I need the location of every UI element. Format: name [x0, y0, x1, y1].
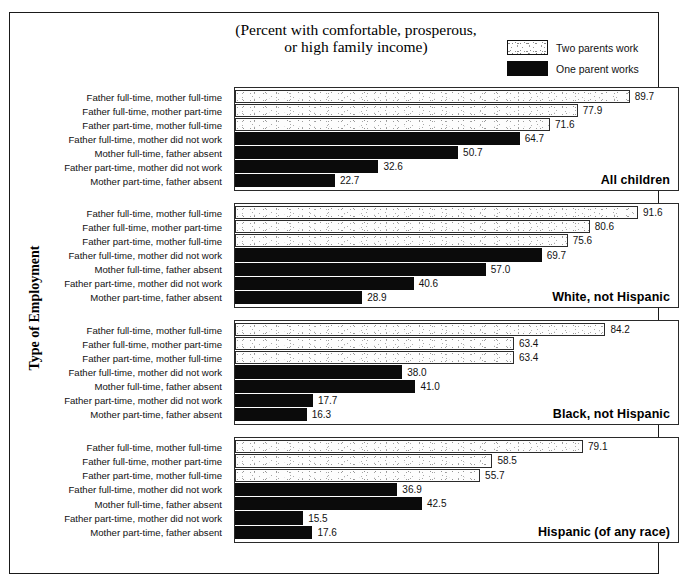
category-row: Father full-time, mother part-time [58, 454, 234, 468]
category-label: Mother part-time, father absent [58, 527, 228, 538]
category-label: Father part-time, mother full-time [58, 236, 228, 247]
category-row: Father part-time, mother did not work [58, 394, 234, 408]
bar-layer: 91.680.675.669.757.040.628.9 [235, 203, 679, 308]
category-row: Father full-time, mother did not work [58, 483, 234, 497]
category-label-column: Father full-time, mother full-timeFather… [58, 87, 234, 191]
category-label: Father part-time, mother did not work [58, 162, 228, 173]
category-row: Mother full-time, father absent [58, 263, 234, 277]
bar-value-label: 77.9 [581, 105, 604, 116]
bar-layer: 79.158.555.736.942.515.517.6 [235, 437, 679, 543]
bar-two-parents-work [235, 323, 605, 336]
chart-panel: White, not HispanicFather full-time, mot… [58, 203, 679, 308]
category-row: Father full-time, mother did not work [58, 132, 234, 146]
chart-title-line-1: (Percent with comfortable, prosperous, [206, 21, 506, 38]
legend-label-one-parent-works: One parent works [556, 63, 639, 75]
category-label-column: Father full-time, mother full-timeFather… [58, 437, 234, 543]
category-row: Father full-time, mother full-time [58, 90, 234, 104]
bar-value-label: 80.6 [593, 221, 616, 232]
bar-one-parent-works [235, 511, 303, 524]
bar-value-label: 71.6 [553, 119, 576, 130]
chart-panel: All childrenFather full-time, mother ful… [58, 87, 679, 191]
legend-item-one-parent-works: One parent works [507, 60, 657, 77]
chart-legend: Two parents work One parent works [507, 39, 657, 81]
category-label: Father full-time, mother full-time [58, 208, 228, 219]
legend-swatch-two-parents-work [507, 40, 548, 55]
bar-one-parent-works [235, 160, 378, 173]
bar-one-parent-works [235, 291, 362, 304]
bar-two-parents-work [235, 469, 480, 482]
category-label: Father full-time, mother part-time [58, 106, 228, 117]
bar-two-parents-work [235, 90, 630, 103]
y-axis-title: Type of Employment [24, 183, 46, 433]
bar-value-label: 15.5 [306, 513, 329, 524]
category-row: Father part-time, mother did not work [58, 511, 234, 525]
category-label: Father part-time, mother full-time [58, 120, 228, 131]
category-label: Father full-time, mother did not work [58, 134, 228, 145]
bar-value-label: 22.7 [338, 175, 361, 186]
bar-value-label: 91.6 [641, 207, 664, 218]
category-row: Father full-time, mother full-time [58, 206, 234, 220]
category-row: Father part-time, mother full-time [58, 234, 234, 248]
bar-one-parent-works [235, 483, 397, 496]
category-row: Mother part-time, father absent [58, 291, 234, 305]
category-row: Mother full-time, father absent [58, 146, 234, 160]
bar-one-parent-works [235, 394, 313, 407]
bar-two-parents-work [235, 337, 514, 350]
bar-value-label: 17.6 [315, 527, 338, 538]
bar-value-label: 79.1 [586, 441, 609, 452]
bar-value-label: 38.0 [405, 367, 428, 378]
bar-one-parent-works [235, 408, 307, 421]
bar-one-parent-works [235, 248, 542, 261]
category-row: Father part-time, mother did not work [58, 277, 234, 291]
bar-one-parent-works [235, 526, 312, 539]
category-label: Father part-time, mother did not work [58, 278, 228, 289]
category-label-column: Father full-time, mother full-timeFather… [58, 203, 234, 308]
category-row: Father full-time, mother full-time [58, 440, 234, 454]
figure-frame: (Percent with comfortable, prosperous, o… [9, 12, 659, 574]
bar-value-label: 36.9 [400, 484, 423, 495]
category-label: Mother full-time, father absent [58, 264, 228, 275]
bar-value-label: 89.7 [633, 91, 656, 102]
category-row: Mother full-time, father absent [58, 497, 234, 511]
chart-title-line-2: or high family income) [206, 38, 506, 55]
bar-two-parents-work [235, 118, 550, 131]
category-row: Mother full-time, father absent [58, 380, 234, 394]
bar-one-parent-works [235, 497, 422, 510]
bar-two-parents-work [235, 454, 492, 467]
bar-value-label: 28.9 [365, 292, 388, 303]
bar-value-label: 41.0 [418, 381, 441, 392]
bar-layer: 84.263.463.438.041.017.716.3 [235, 320, 679, 425]
category-label: Father full-time, mother part-time [58, 222, 228, 233]
bar-value-label: 57.0 [489, 264, 512, 275]
bar-value-label: 42.5 [425, 498, 448, 509]
category-row: Father full-time, mother full-time [58, 323, 234, 337]
category-row: Father part-time, mother did not work [58, 160, 234, 174]
category-label: Father full-time, mother did not work [58, 367, 228, 378]
bar-two-parents-work [235, 440, 583, 453]
bar-two-parents-work [235, 206, 638, 219]
bar-value-label: 40.6 [417, 278, 440, 289]
chart-panel: Black, not HispanicFather full-time, mot… [58, 320, 679, 425]
category-row: Father full-time, mother did not work [58, 365, 234, 379]
category-label: Father part-time, mother did not work [58, 395, 228, 406]
bar-one-parent-works [235, 277, 414, 290]
category-row: Mother part-time, father absent [58, 526, 234, 540]
category-label: Mother full-time, father absent [58, 499, 228, 510]
category-label: Father part-time, mother full-time [58, 470, 228, 481]
category-label: Mother part-time, father absent [58, 292, 228, 303]
chart-title: (Percent with comfortable, prosperous, o… [206, 21, 506, 55]
bar-one-parent-works [235, 365, 402, 378]
chart-panel: Hispanic (of any race)Father full-time, … [58, 437, 679, 543]
category-row: Father full-time, mother part-time [58, 220, 234, 234]
bar-one-parent-works [235, 146, 458, 159]
bar-value-label: 58.5 [495, 455, 518, 466]
bar-layer: 89.777.971.664.750.732.622.7 [235, 87, 679, 191]
bar-two-parents-work [235, 104, 578, 117]
bar-one-parent-works [235, 263, 486, 276]
category-row: Mother part-time, father absent [58, 408, 234, 422]
category-label: Father full-time, mother full-time [58, 92, 228, 103]
category-row: Father part-time, mother full-time [58, 351, 234, 365]
bar-one-parent-works [235, 380, 415, 393]
y-axis-title-text: Type of Employment [27, 246, 43, 371]
bar-value-label: 55.7 [483, 470, 506, 481]
